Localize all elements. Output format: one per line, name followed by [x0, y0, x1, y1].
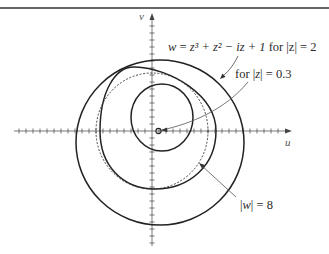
w8-var: w [243, 198, 251, 212]
main-equation-label: w = z³ + z² − iz + 1 for |z| = 2 [168, 41, 316, 54]
leader-w8 [201, 165, 236, 197]
eq-rhs: z³ + z² − iz + 1 [190, 40, 266, 54]
u-axis-arrow-icon [285, 129, 292, 134]
small-suffix: | = 0.3 [260, 67, 291, 81]
v-axis-label: v [139, 11, 144, 22]
eq-condition: for |z| = 2 [266, 40, 317, 54]
u-axis-label: u [285, 137, 291, 148]
v-axis-arrow-icon [150, 13, 155, 20]
u-axis [14, 129, 288, 134]
eq-sign: = [176, 40, 189, 54]
complex-mapping-diagram [0, 0, 329, 254]
w8-suffix: | = 8 [251, 198, 273, 212]
v-axis [150, 18, 155, 246]
inner-loop-curve [131, 84, 193, 151]
small-prefix: for | [235, 67, 255, 81]
dashed-circle-label: |w| = 8 [240, 199, 273, 212]
small-curve-label: for |z| = 0.3 [235, 68, 292, 81]
